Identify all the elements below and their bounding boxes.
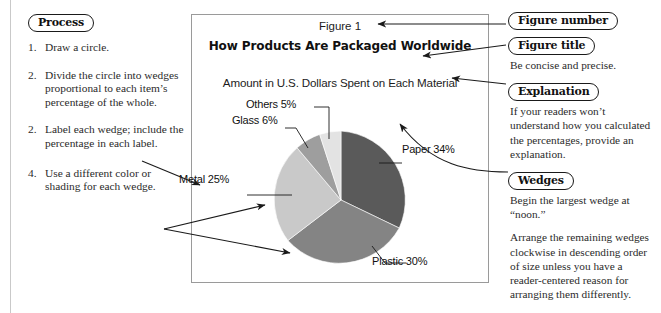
step-text: Divide the circle into wedges proportion… xyxy=(45,69,184,110)
figure-box: Figure 1 How Products Are Packaged World… xyxy=(191,14,489,283)
step-text: Label each wedge; include the percentage… xyxy=(45,123,184,150)
pie-chart: Others 5% Glass 6% Metal 25% Paper 34% P… xyxy=(192,15,490,284)
figure-title-note: Be concise and precise. xyxy=(510,58,656,72)
wedges-pill: Wedges xyxy=(508,172,574,190)
annotation-wedges: Wedges Begin the largest wedge at “noon.… xyxy=(508,170,656,301)
list-item: 2. Divide the circle into wedges proport… xyxy=(24,69,184,110)
annotation-column: Figure number Figure title Be concise an… xyxy=(508,10,656,310)
process-column: Process 1. Draw a circle. 2. Divide the … xyxy=(24,12,184,208)
list-item: 4. Use a different color or shading for … xyxy=(24,167,184,194)
list-item: 1. Draw a circle. xyxy=(24,41,184,55)
pie-label-plastic: Plastic 30% xyxy=(372,255,427,267)
pie-label-paper: Paper 34% xyxy=(402,143,455,155)
page-margin-rule xyxy=(10,0,11,313)
step-text: Draw a circle. xyxy=(45,41,184,55)
figure-number-pill: Figure number xyxy=(508,12,618,30)
wedges-note-1: Begin the largest wedge at “noon.” xyxy=(510,193,656,221)
process-heading-pill: Process xyxy=(28,14,94,32)
figure-title-pill: Figure title xyxy=(508,37,595,55)
step-number: 4. xyxy=(24,167,45,194)
pie-label-glass: Glass 6% xyxy=(232,114,277,126)
annotation-figure-number: Figure number xyxy=(508,10,656,30)
annotation-figure-title: Figure title Be concise and precise. xyxy=(508,35,656,72)
explanation-pill: Explanation xyxy=(508,83,599,101)
list-item: 2. Label each wedge; include the percent… xyxy=(24,123,184,150)
step-number: 2. xyxy=(24,69,45,110)
pie-label-others: Others 5% xyxy=(246,98,296,110)
step-text: Use a different color or shading for eac… xyxy=(45,167,184,194)
explanation-note: If your readers won’t understand how you… xyxy=(510,104,656,161)
step-number: 2. xyxy=(24,123,45,150)
step-number: 1. xyxy=(24,41,45,55)
wedges-note-2: Arrange the remaining wedges clockwise i… xyxy=(510,230,656,301)
pie-label-metal: Metal 25% xyxy=(179,173,229,185)
annotation-explanation: Explanation If your readers won’t unders… xyxy=(508,81,656,161)
process-step-list: 1. Draw a circle. 2. Divide the circle i… xyxy=(24,41,184,194)
